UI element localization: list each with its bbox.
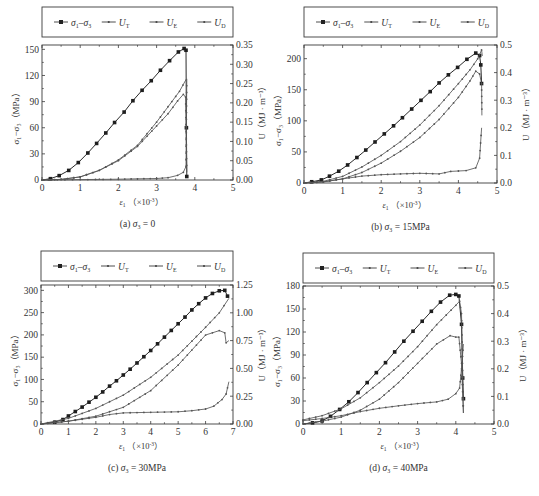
square-marker-icon [375, 371, 379, 375]
square-marker-icon [402, 339, 406, 343]
square-marker-icon [58, 264, 62, 268]
y2-tick-label: 0.30 [236, 60, 253, 70]
series-stress [304, 51, 483, 183]
y2-tick-label: 0.1 [497, 392, 509, 402]
x-tick-label: 3 [415, 427, 420, 437]
square-marker-icon [87, 400, 91, 404]
square-marker-icon [135, 361, 139, 365]
chart-panel-a: σ1–σ3UTUEUD012345ε1 （×10-3）0306090120150… [11, 7, 267, 230]
y2-tick-label: 0.0 [500, 178, 512, 188]
y-tick-label: 0 [34, 175, 39, 185]
square-marker-icon [382, 132, 386, 136]
square-marker-icon [67, 169, 71, 173]
dot-marker-icon [203, 265, 205, 267]
series-ue [41, 93, 187, 180]
figure-panel-grid: σ1–σ3UTUEUD012345ε1 （×10-3）0306090120150… [0, 0, 539, 496]
series-ud [41, 79, 188, 181]
series-stress [42, 47, 189, 181]
y-tick-label: 50 [29, 397, 39, 407]
legend: σ1–σ3UTUEUD [42, 7, 233, 37]
square-marker-icon [204, 296, 208, 300]
y2-tick-label: 0.5 [500, 40, 512, 50]
square-marker-icon [168, 59, 172, 63]
x-axis-label: ε1 （×10-3） [119, 441, 163, 452]
legend: σ1–σ3UTUEUD [41, 251, 233, 281]
y-axis-right-label: U（MJ · m⁻³） [257, 324, 267, 382]
y2-tick-label: 0.50 [236, 364, 253, 374]
series-ut [41, 79, 186, 181]
y-tick-label: 120 [286, 327, 301, 337]
square-marker-icon [128, 367, 132, 371]
y2-tick-label: 1.25 [236, 280, 253, 290]
x-tick-label: 6 [203, 427, 208, 437]
y-tick-label: 100 [24, 375, 39, 385]
square-marker-icon [163, 335, 167, 339]
x-tick-label: 0 [40, 183, 45, 193]
y2-tick-label: 0.0 [497, 419, 509, 429]
square-marker-icon [337, 169, 341, 173]
square-marker-icon [176, 322, 180, 326]
x-tick-label: 1 [66, 427, 71, 437]
square-marker-icon [392, 124, 396, 128]
y2-tick-label: 0.4 [500, 68, 512, 78]
x-axis-label: ε1 （×10-3） [120, 197, 164, 208]
x-tick-label: 0 [301, 427, 306, 437]
y2-tick-label: 0.3 [497, 337, 509, 347]
square-marker-icon [439, 300, 443, 304]
y-axis-right-label: U（MJ · m⁻³） [518, 324, 528, 382]
x-tick-label: 2 [93, 427, 98, 437]
square-marker-icon [474, 51, 478, 55]
square-marker-icon [420, 319, 424, 323]
y-tick-label: 120 [25, 71, 40, 81]
legend: σ1–σ3UTUEUD [304, 7, 497, 37]
x-tick-label: 2 [379, 186, 384, 196]
x-tick-label: 2 [377, 427, 382, 437]
square-marker-icon [448, 293, 452, 297]
square-marker-icon [108, 384, 112, 388]
square-marker-icon [156, 342, 160, 346]
square-marker-icon [67, 414, 71, 418]
y-tick-label: 150 [286, 304, 301, 314]
x-tick-label: 1 [78, 183, 83, 193]
square-marker-icon [356, 391, 360, 395]
square-marker-icon [183, 315, 187, 319]
legend-label: σ1–σ3 [71, 18, 91, 29]
dot-marker-icon [155, 265, 157, 267]
square-marker-icon [190, 308, 194, 312]
square-marker-icon [104, 131, 108, 135]
x-tick-label: 5 [231, 183, 236, 193]
y-tick-label: 30 [30, 149, 40, 159]
plot-area [304, 45, 497, 183]
square-marker-icon [373, 140, 377, 144]
dot-marker-icon [464, 267, 466, 269]
dot-marker-icon [108, 21, 110, 23]
y2-tick-label: 0.00 [236, 419, 253, 429]
y-axis-right-label: U（MJ · m⁻³） [521, 83, 531, 141]
square-marker-icon [169, 329, 173, 333]
x-tick-label: 4 [456, 186, 461, 196]
y-tick-label: 50 [292, 147, 302, 157]
square-marker-icon [430, 310, 434, 314]
series-ud [302, 344, 464, 422]
y2-tick-label: 0.4 [497, 309, 509, 319]
square-marker-icon [115, 379, 119, 383]
x-axis: 012345 [301, 286, 497, 437]
y2-tick-label: 0.2 [500, 123, 512, 133]
legend-label: σ1–σ3 [332, 264, 352, 275]
y-tick-label: 90 [291, 350, 301, 360]
y-tick-label: 180 [286, 281, 301, 291]
x-tick-label: 1 [340, 186, 345, 196]
square-marker-icon [355, 156, 359, 160]
square-marker-icon [479, 63, 483, 67]
plot-area [42, 45, 233, 180]
y-tick-label: 200 [24, 330, 39, 340]
y2-tick-label: 0.35 [236, 40, 253, 50]
x-tick-label: 4 [148, 427, 153, 437]
square-marker-icon [149, 349, 153, 353]
chart-panel-c: σ1–σ3UTUEUD01234567ε1 （×10-3）05010015020… [10, 251, 267, 474]
y-tick-label: 150 [25, 45, 40, 55]
x-tick-label: 3 [417, 186, 422, 196]
square-marker-icon [73, 410, 77, 414]
y2-tick-label: 0.5 [497, 281, 509, 291]
y2-tick-label: 0.25 [236, 392, 253, 402]
